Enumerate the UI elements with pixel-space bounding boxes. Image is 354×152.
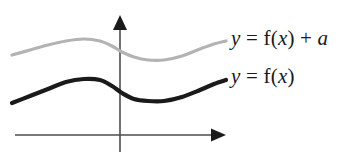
label-shifted-a: a bbox=[318, 26, 329, 50]
label-shifted-x: x bbox=[278, 26, 288, 50]
figure-canvas bbox=[0, 0, 354, 152]
curve-y-equals-f-of-x bbox=[12, 79, 226, 103]
label-base-y: y bbox=[231, 64, 241, 88]
label-base-equals: = bbox=[241, 64, 264, 88]
label-y-equals-f-of-x-plus-a: y = f(x) + a bbox=[231, 28, 328, 49]
label-shifted-equals: = bbox=[241, 26, 264, 50]
label-shifted-f-open: f( bbox=[263, 26, 277, 50]
label-shifted-plus: + bbox=[295, 26, 318, 50]
curves-group bbox=[12, 39, 226, 103]
function-translation-figure: y = f(x) + a y = f(x) bbox=[0, 0, 354, 152]
label-y-equals-f-of-x: y = f(x) bbox=[231, 66, 295, 87]
label-base-close-paren: ) bbox=[287, 64, 294, 88]
label-base-x: x bbox=[278, 64, 288, 88]
label-base-f-open: f( bbox=[263, 64, 277, 88]
label-shifted-y: y bbox=[231, 26, 241, 50]
y-axis-arrowhead bbox=[113, 15, 127, 30]
curve-y-equals-f-of-x-plus-a bbox=[12, 39, 226, 60]
x-axis-arrowhead bbox=[211, 129, 226, 142]
label-shifted-close-paren: ) bbox=[287, 26, 294, 50]
axes-group bbox=[15, 15, 226, 152]
